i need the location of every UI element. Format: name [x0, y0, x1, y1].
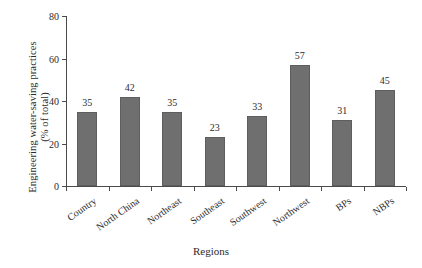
- bar-value-label: 23: [210, 122, 220, 133]
- y-tick-mark: [62, 59, 66, 60]
- y-axis-line: [66, 16, 67, 187]
- bar: [120, 97, 140, 186]
- bar: [290, 65, 310, 186]
- bar-value-label: 35: [167, 97, 177, 108]
- bar-chart: Engineering water-saving practices (% of…: [0, 0, 422, 268]
- y-axis-title: Engineering water-saving practices (% of…: [22, 22, 56, 212]
- x-axis-title: Regions: [0, 245, 422, 257]
- bar-value-label: 57: [295, 50, 305, 61]
- y-tick-mark: [62, 101, 66, 102]
- y-axis-title-line-1: Engineering water-saving practices: [27, 41, 39, 192]
- x-tick-mark: [236, 187, 237, 191]
- x-tick-mark: [151, 187, 152, 191]
- bar: [247, 116, 267, 186]
- bar-value-label: 31: [337, 105, 347, 116]
- y-tick-label: 60: [49, 53, 59, 64]
- plot-area: 020406080 3542352333573145 CountryNorth …: [66, 16, 406, 186]
- x-tick-mark: [109, 187, 110, 191]
- x-tick-mark: [321, 187, 322, 191]
- bar-value-label: 45: [380, 75, 390, 86]
- y-tick-label: 0: [54, 181, 59, 192]
- y-tick-mark: [62, 16, 66, 17]
- bar: [332, 120, 352, 186]
- x-tick-mark: [279, 187, 280, 191]
- bar: [205, 137, 225, 186]
- bar-value-label: 35: [82, 97, 92, 108]
- x-tick-mark: [406, 187, 407, 191]
- bar: [375, 90, 395, 186]
- y-tick-label: 20: [49, 138, 59, 149]
- bar-value-label: 33: [252, 101, 262, 112]
- y-tick-label: 80: [49, 11, 59, 22]
- y-tick-label: 40: [49, 96, 59, 107]
- x-tick-mark: [364, 187, 365, 191]
- x-tick-mark: [66, 187, 67, 191]
- bar-value-label: 42: [125, 82, 135, 93]
- bar: [162, 112, 182, 186]
- y-tick-mark: [62, 144, 66, 145]
- x-tick-mark: [194, 187, 195, 191]
- bar: [77, 112, 97, 186]
